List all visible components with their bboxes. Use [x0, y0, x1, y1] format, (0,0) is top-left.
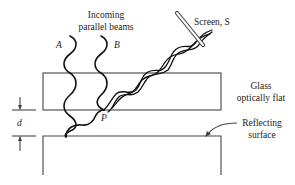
point-p-label: P	[100, 113, 107, 123]
interference-diagram: Incoming parallel beams A B Screen, S Gl…	[0, 0, 295, 185]
reflected-beam-2	[108, 32, 212, 112]
glass-label-line2: optically flat	[237, 93, 286, 103]
incoming-label-line2: parallel beams	[78, 22, 133, 32]
beam-a-wave	[64, 36, 76, 137]
gap-d-label: d	[17, 118, 22, 128]
arrow-down-icon	[18, 105, 22, 110]
incoming-label-line1: Incoming	[88, 10, 125, 20]
reflecting-label-line2: surface	[248, 130, 275, 140]
screen-label: Screen, S	[194, 17, 230, 27]
reflected-beam-3	[112, 34, 210, 108]
reflecting-label-line1: Reflecting	[242, 118, 282, 128]
beam-a-label: A	[55, 40, 62, 50]
beam-b-label: B	[114, 40, 120, 50]
gap-dimension	[12, 97, 36, 151]
beam-a-reflected-wave	[66, 110, 104, 137]
reflecting-surface	[43, 136, 221, 175]
arrow-up-icon	[18, 136, 22, 141]
glass-label-line1: Glass	[250, 81, 271, 91]
reflecting-pointer	[208, 123, 237, 134]
